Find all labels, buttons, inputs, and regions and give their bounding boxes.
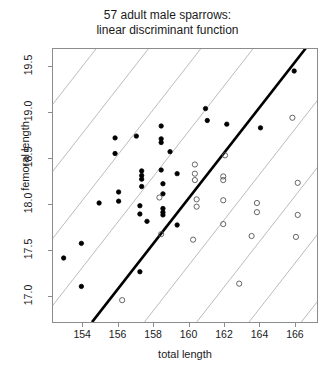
plot-area — [52, 48, 318, 323]
data-point-perished — [237, 281, 242, 286]
figure: 57 adult male sparrows: linear discrimin… — [0, 0, 335, 370]
parallel-iso-line — [53, 96, 318, 323]
data-point-survived — [79, 284, 83, 288]
data-point-survived — [116, 199, 120, 203]
parallel-iso-line — [53, 49, 318, 323]
data-point-survived — [61, 256, 65, 260]
data-point-survived — [203, 106, 207, 110]
data-point-perished — [290, 115, 295, 120]
data-point-survived — [175, 223, 179, 227]
y-tick-mark — [48, 250, 52, 251]
x-tick-label: 160 — [174, 328, 204, 340]
data-point-survived — [139, 184, 143, 188]
chart-title-line1: 57 adult male sparrows: — [0, 8, 335, 23]
data-point-survived — [258, 126, 262, 130]
data-point-survived — [139, 177, 143, 181]
data-point-perished — [120, 298, 125, 303]
x-tick-label: 158 — [138, 328, 168, 340]
data-point-survived — [225, 122, 229, 126]
y-tick-mark — [48, 204, 52, 205]
x-tick-mark — [189, 323, 190, 327]
data-point-perished — [157, 195, 162, 200]
data-point-survived — [138, 212, 142, 216]
data-point-survived — [139, 169, 143, 173]
data-point-survived — [79, 241, 83, 245]
x-tick-mark — [153, 323, 154, 327]
scatter-plot-svg — [53, 49, 318, 323]
data-point-perished — [221, 198, 226, 203]
chart-title: 57 adult male sparrows: linear discrimin… — [0, 8, 335, 38]
data-point-perished — [192, 171, 197, 176]
data-point-perished — [192, 162, 197, 167]
x-axis-label: total length — [52, 348, 318, 360]
x-tick-label: 154 — [67, 328, 97, 340]
parallel-iso-line — [53, 49, 318, 323]
data-point-perished — [221, 221, 226, 226]
x-tick-mark — [259, 323, 260, 327]
data-point-perished — [249, 233, 254, 238]
parallel-iso-line — [53, 49, 318, 307]
data-point-survived — [113, 136, 117, 140]
data-point-perished — [194, 204, 199, 209]
x-tick-label: 164 — [244, 328, 274, 340]
data-point-perished — [254, 200, 259, 205]
y-tick-label: 17.0 — [22, 278, 34, 312]
x-tick-mark — [224, 323, 225, 327]
data-point-survived — [161, 182, 165, 186]
data-point-perished — [192, 177, 197, 182]
data-point-survived — [138, 204, 142, 208]
y-axis-label: femoral length — [19, 86, 31, 226]
parallel-iso-line — [53, 49, 318, 240]
data-point-survived — [159, 140, 163, 144]
data-point-perished — [194, 197, 199, 202]
y-tick-mark — [48, 66, 52, 67]
x-tick-label: 162 — [209, 328, 239, 340]
data-point-perished — [295, 180, 300, 185]
data-point-survived — [159, 168, 163, 172]
y-tick-mark — [48, 296, 52, 297]
data-point-survived — [205, 118, 209, 122]
data-point-perished — [295, 212, 300, 217]
parallel-iso-line — [53, 49, 318, 323]
data-point-perished — [293, 234, 298, 239]
data-point-survived — [292, 69, 296, 73]
x-tick-label: 156 — [103, 328, 133, 340]
data-point-perished — [254, 210, 259, 215]
data-point-perished — [221, 177, 226, 182]
discriminant-line — [92, 49, 307, 322]
data-point-survived — [175, 171, 179, 175]
x-tick-mark — [118, 323, 119, 327]
data-point-survived — [134, 134, 138, 138]
y-tick-label: 19.5 — [22, 48, 34, 82]
y-tick-mark — [48, 158, 52, 159]
y-tick-mark — [48, 112, 52, 113]
data-point-survived — [138, 270, 142, 274]
data-point-survived — [145, 219, 149, 223]
data-point-survived — [161, 213, 165, 217]
data-point-survived — [97, 201, 101, 205]
x-tick-label: 166 — [280, 328, 310, 340]
data-point-survived — [168, 149, 172, 153]
data-point-survived — [116, 190, 120, 194]
x-tick-mark — [82, 323, 83, 327]
chart-title-line2: linear discriminant function — [0, 23, 335, 38]
data-point-survived — [113, 151, 117, 155]
x-tick-mark — [295, 323, 296, 327]
parallel-iso-line — [53, 49, 318, 323]
data-point-perished — [190, 237, 195, 242]
data-point-survived — [159, 124, 163, 128]
y-tick-label: 17.5 — [22, 232, 34, 266]
